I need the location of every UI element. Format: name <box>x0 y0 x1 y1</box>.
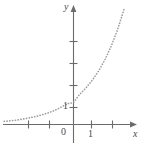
origin-label: 0 <box>61 127 66 137</box>
y-axis-arrowhead <box>71 5 77 12</box>
x-axis-label: x <box>133 129 137 139</box>
exponential-function-plot: y x 0 1 1 <box>0 0 144 156</box>
plot-canvas <box>0 0 144 156</box>
x-tick-label-1: 1 <box>88 129 93 139</box>
y-axis-label: y <box>64 2 68 12</box>
x-axis-arrowhead <box>130 122 137 128</box>
y-tick-label-1: 1 <box>63 101 68 111</box>
